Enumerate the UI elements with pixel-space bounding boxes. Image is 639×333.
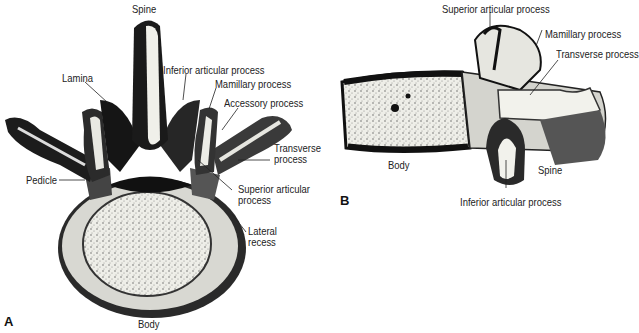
label-b-mamillary-process: Mamillary process bbox=[545, 28, 621, 40]
label-a-lamina: Lamina bbox=[62, 72, 93, 84]
label-b-superior-articular-process: Superior articular process bbox=[442, 3, 550, 15]
label-a-accessory-process: Accessory process bbox=[224, 97, 303, 109]
label-a-inferior-articular-process: Inferior articular process bbox=[163, 64, 264, 76]
label-a-superior-articular-process-line2: process bbox=[238, 194, 271, 206]
label-a-mamillary-process: Mamillary process bbox=[215, 78, 291, 90]
label-b-body: Body bbox=[388, 159, 410, 171]
label-b-inferior-articular-process: Inferior articular process bbox=[460, 196, 561, 208]
label-a-spine: Spine bbox=[132, 3, 156, 15]
label-a-body: Body bbox=[138, 318, 160, 330]
label-b-transverse-process: Transverse process bbox=[556, 48, 639, 60]
panel-letter-a: A bbox=[4, 314, 13, 329]
label-b-spine: Spine bbox=[538, 164, 562, 176]
label-a-lateral-recess-line2: recess bbox=[248, 236, 276, 248]
label-a-transverse-process-line2: process bbox=[274, 153, 307, 165]
panel-letter-b: B bbox=[340, 193, 349, 208]
label-a-pedicle: Pedicle bbox=[26, 174, 57, 186]
